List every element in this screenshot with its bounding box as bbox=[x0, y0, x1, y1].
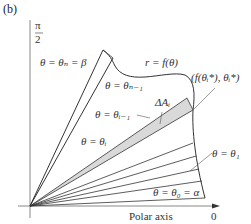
leader-theta-i-minus-1 bbox=[137, 115, 150, 118]
label-theta-i-minus-1: θ = θᵢ₋₁ bbox=[95, 108, 130, 120]
arc-top-wedge bbox=[103, 50, 113, 58]
label-theta-1: θ = θ₁ bbox=[212, 147, 240, 159]
label-theta-0: θ = θ₀ = α bbox=[153, 186, 199, 198]
polar-axis-zero: 0 bbox=[211, 210, 217, 222]
label-delta-a: ΔAᵢ bbox=[154, 96, 170, 108]
label-point: (f(θᵢ*), θᵢ*) bbox=[191, 71, 240, 84]
panel-label: (b) bbox=[3, 2, 17, 16]
polar-axis-arrow-icon bbox=[212, 204, 220, 209]
axis-label-two: 2 bbox=[35, 33, 41, 45]
label-theta-n-minus-1: θ = θₙ₋₁ bbox=[105, 79, 143, 91]
leader-point bbox=[193, 88, 215, 110]
polar-area-diagram: (b) π 2 θ = θₙ = β r = f(θ) (f(θᵢ*), θᵢ*… bbox=[0, 0, 251, 224]
leader-theta-1 bbox=[190, 153, 212, 171]
ray-bottom-2 bbox=[30, 156, 196, 206]
ray-theta-n-minus-1 bbox=[30, 58, 113, 206]
axis-label-pi: π bbox=[35, 19, 41, 31]
label-curve: r = f(θ) bbox=[145, 56, 178, 69]
polar-axis-label: Polar axis bbox=[129, 210, 173, 222]
label-theta-n: θ = θₙ = β bbox=[40, 56, 87, 68]
label-theta-i: θ = θᵢ bbox=[81, 135, 107, 147]
